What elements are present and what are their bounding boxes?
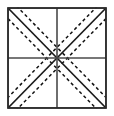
geometric-figure-svg [0, 0, 114, 116]
frame-clip-mask-top [0, 0, 114, 7]
frame-clip-mask-bottom [0, 109, 114, 116]
frame-clip-mask-left [0, 0, 7, 116]
frame-clip-mask-right [107, 0, 114, 116]
figure-container [0, 0, 114, 116]
